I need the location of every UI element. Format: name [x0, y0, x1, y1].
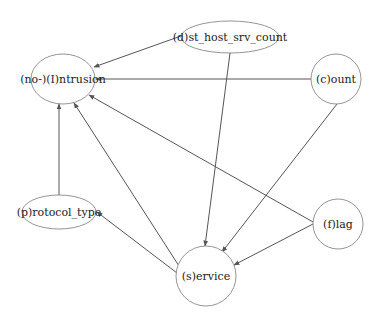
edges-group: [59, 36, 337, 273]
node-service: (s)ervice: [176, 246, 236, 306]
node-label: (p)rotocol_type: [17, 206, 102, 219]
graph-svg: (no-)(I)ntrusion(d)st_host_srv_count(c)o…: [0, 0, 381, 318]
edge-flag-to-service: [234, 224, 313, 265]
edge-dst_host_srv_count-to-intrusion: [94, 36, 181, 67]
node-label: (d)st_host_srv_count: [173, 31, 288, 44]
node-count: (c)ount: [311, 54, 361, 104]
causal-graph-diagram: (no-)(I)ntrusion(d)st_host_srv_count(c)o…: [0, 0, 381, 318]
node-label: (s)ervice: [182, 270, 230, 283]
node-intrusion: (no-)(I)ntrusion: [20, 54, 106, 104]
nodes-group: (no-)(I)ntrusion(d)st_host_srv_count(c)o…: [17, 21, 363, 306]
edge-dst_host_srv_count-to-service: [205, 53, 230, 246]
node-flag: (f)lag: [313, 199, 363, 249]
node-label: (c)ount: [316, 73, 357, 86]
edge-flag-to-intrusion: [89, 95, 313, 222]
node-dst_host_srv_count: (d)st_host_srv_count: [173, 21, 288, 53]
edge-service-to-intrusion: [74, 103, 179, 266]
node-protocol_type: (p)rotocol_type: [17, 195, 102, 229]
node-label: (f)lag: [323, 218, 353, 231]
edge-service-to-protocol_type: [97, 212, 177, 273]
node-label: (no-)(I)ntrusion: [20, 73, 106, 86]
